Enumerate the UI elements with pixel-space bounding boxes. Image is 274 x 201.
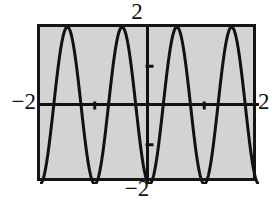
x-max-label: 2	[258, 90, 274, 113]
graphing-calculator-figure: 2 −2 2 −2	[0, 0, 274, 201]
plot-frame	[37, 24, 256, 181]
x-min-label: −2	[2, 90, 36, 113]
y-max-label: 2	[0, 0, 274, 23]
plot-canvas	[40, 27, 259, 184]
